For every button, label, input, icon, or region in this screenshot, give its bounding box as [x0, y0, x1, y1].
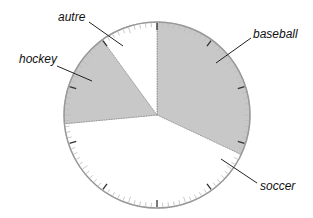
minor-tick [168, 24, 169, 28]
minor-tick [145, 24, 146, 28]
pie-slices [64, 22, 250, 208]
minor-tick [66, 126, 70, 127]
slice-label-autre: autre [58, 10, 86, 24]
slice-label-soccer: soccer [260, 179, 296, 193]
minor-tick [66, 103, 70, 104]
minor-tick [244, 126, 248, 127]
minor-tick [145, 202, 146, 206]
slice-label-baseball: baseball [253, 27, 298, 41]
minor-tick [168, 202, 169, 206]
pie-chart: autre hockey baseball soccer [0, 0, 313, 218]
slice-label-hockey: hockey [19, 52, 58, 66]
minor-tick [244, 103, 248, 104]
